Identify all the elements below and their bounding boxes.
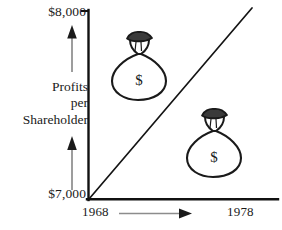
bag-tie <box>202 109 227 118</box>
x-axis-end-label: 1978 <box>227 205 254 220</box>
y-axis-bottom-tick-label: $7,000 <box>48 186 86 201</box>
bag-dollar-sign: $ <box>135 72 143 88</box>
up-arrow-icon-lower <box>67 136 77 190</box>
y-axis-title-line-2: per <box>2 95 88 111</box>
money-bag-icon-lower: $ <box>187 109 241 177</box>
y-axis-top-tick-label: $8,000 <box>48 4 86 19</box>
y-axis-title-line-3: Shareholder <box>2 112 88 128</box>
right-arrow-icon <box>119 209 192 219</box>
bag-dollar-sign: $ <box>210 149 218 165</box>
chart-figure: $ $ $8,000 $7,000 Profits per Shareholde… <box>0 0 282 230</box>
money-bag-icon-upper: $ <box>112 32 166 100</box>
up-arrow-icon-upper <box>67 25 77 72</box>
y-axis-title: Profits per Shareholder <box>2 79 88 128</box>
y-axis-title-line-1: Profits <box>2 79 88 95</box>
x-axis-start-label: 1968 <box>82 205 109 220</box>
bag-tie <box>127 32 152 41</box>
